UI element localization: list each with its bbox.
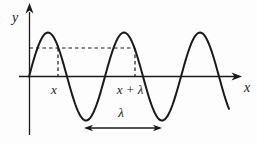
wave-diagram-svg: y x x x + λ λ: [0, 0, 257, 145]
point-x-plus-lambda-label: x + λ: [116, 82, 144, 97]
y-axis-arrowhead-icon: [26, 3, 34, 14]
wave-diagram-figure: y x x x + λ λ: [0, 0, 257, 145]
y-axis-label: y: [10, 10, 19, 25]
wavelength-label: λ: [117, 105, 124, 120]
point-x-label: x: [50, 82, 57, 97]
x-axis-label: x: [243, 80, 251, 95]
